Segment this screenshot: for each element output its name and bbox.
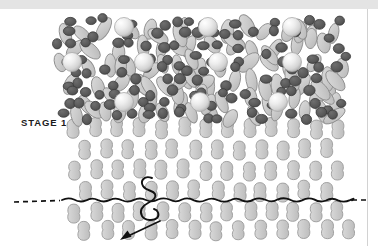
ordered-lipid <box>310 161 322 180</box>
lipid-head-group <box>112 111 121 120</box>
ordered-lipid <box>112 160 124 179</box>
lipid-head-group <box>52 39 61 49</box>
ordered-lipid <box>101 139 113 158</box>
ordered-lipid <box>68 204 80 223</box>
ordered-lipid <box>310 203 322 222</box>
lipid-head-group <box>310 98 321 108</box>
lipid-head-group <box>233 31 243 40</box>
lipid-head-group <box>335 16 345 25</box>
lipid-head-group <box>226 93 237 103</box>
ordered-lipid <box>157 202 169 221</box>
lipid-head-group <box>333 44 344 54</box>
ordered-lipid <box>277 141 289 160</box>
membrane-diagram <box>0 0 378 246</box>
lipid-head-group <box>143 111 155 119</box>
lipid-head-group <box>157 62 167 72</box>
ordered-lipid <box>299 139 311 158</box>
ordered-lipid <box>288 161 300 180</box>
lipid-head-group <box>199 67 209 75</box>
ordered-lipid-leaflet <box>67 117 355 241</box>
ordered-lipid <box>298 180 310 199</box>
lipid-head-group <box>81 38 90 47</box>
lipid-head-group <box>98 14 107 23</box>
ordered-lipid <box>190 140 202 159</box>
lipid-head-group <box>67 86 78 95</box>
lipid-head-group <box>192 75 202 85</box>
lipid-head-group <box>240 90 250 99</box>
ordered-lipid <box>212 181 224 200</box>
ordered-lipid <box>200 203 212 222</box>
lipid-head-group <box>212 41 222 49</box>
ordered-lipid <box>79 140 91 159</box>
ordered-lipid <box>298 219 310 238</box>
ordered-lipid <box>91 160 103 179</box>
lipid-head-group <box>341 52 351 60</box>
ordered-lipid <box>321 138 333 157</box>
lipid-head-group <box>158 43 170 53</box>
ordered-lipid <box>277 220 289 239</box>
lipid-head-group <box>184 18 193 26</box>
lipid-head-group <box>247 108 256 118</box>
lipid-head-group <box>179 27 191 37</box>
lipid-head-group <box>256 114 268 123</box>
lipid-head-group <box>163 74 173 84</box>
lipid-head-group <box>108 81 118 90</box>
lipid-head-group <box>91 101 100 110</box>
ordered-lipid <box>221 161 233 180</box>
ordered-lipid <box>287 202 299 221</box>
lipid-head-group <box>175 107 185 117</box>
lipid-head-group <box>141 41 151 51</box>
ordered-lipid <box>245 201 257 220</box>
ordered-lipid <box>189 220 201 239</box>
lipid-head-group <box>276 43 288 52</box>
lipid-head-group <box>301 114 311 124</box>
lipid-head-group <box>190 51 201 59</box>
lipid-head-group <box>269 26 278 36</box>
ordered-lipid <box>343 220 355 239</box>
ordered-lipid <box>179 203 191 222</box>
lipid-head-group <box>231 62 240 71</box>
lipid-head-group <box>286 86 296 95</box>
lipid-head-group <box>218 89 227 97</box>
large-sphere <box>199 18 218 37</box>
lipid-head-group <box>220 29 230 38</box>
large-sphere <box>209 53 228 72</box>
large-sphere <box>115 93 134 112</box>
lipid-head-group <box>66 39 76 48</box>
ordered-lipid <box>331 201 343 220</box>
ordered-lipid <box>79 182 91 201</box>
large-sphere <box>283 53 302 72</box>
ordered-lipid <box>69 161 81 180</box>
lipid-head-group <box>130 85 140 95</box>
large-sphere <box>115 18 134 37</box>
ordered-lipid <box>233 141 245 160</box>
lipid-head-group <box>131 74 141 85</box>
large-sphere <box>135 53 154 72</box>
lipid-head-group <box>58 109 69 117</box>
lipid-head-group <box>74 98 84 108</box>
dashed-line-left <box>14 201 60 203</box>
ordered-lipid <box>155 160 167 179</box>
ordered-lipid <box>166 220 178 239</box>
lipid-head-group <box>286 109 297 118</box>
ordered-lipid <box>145 140 157 159</box>
lipid-head-group <box>304 85 315 95</box>
lipid-head-group <box>233 44 244 52</box>
lipid-head-group <box>289 76 301 86</box>
ordered-lipid <box>91 202 103 221</box>
large-sphere <box>283 18 302 37</box>
lipid-head-group <box>169 41 179 49</box>
lipid-head-group <box>311 74 322 83</box>
figure-panel: STAGE 14 <box>0 0 378 246</box>
lipid-head-group <box>337 99 346 107</box>
ordered-lipid <box>124 182 136 201</box>
lipid-head-group <box>249 98 261 107</box>
ordered-lipid <box>232 221 244 240</box>
ordered-lipid <box>101 180 113 199</box>
ordered-lipid <box>288 119 300 138</box>
large-sphere <box>63 53 82 72</box>
ordered-lipid <box>256 140 268 159</box>
lipid-head-group <box>331 62 343 73</box>
lipid-head-group <box>298 68 309 78</box>
ordered-lipid <box>331 161 343 180</box>
